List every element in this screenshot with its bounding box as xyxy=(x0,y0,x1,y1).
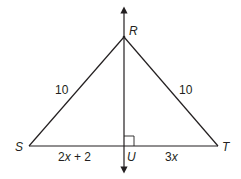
length-ut: 3x xyxy=(165,150,179,164)
label-u: U xyxy=(127,150,136,164)
label-r: R xyxy=(129,24,138,38)
segment-rs xyxy=(29,37,124,146)
length-rs: 10 xyxy=(55,83,69,97)
triangle-diagram: R S T U 10 10 2x + 2 3x xyxy=(0,0,241,179)
right-angle-mark xyxy=(124,136,134,146)
vertex-r-dot xyxy=(123,36,126,39)
length-rt: 10 xyxy=(179,83,193,97)
label-s: S xyxy=(15,140,23,154)
segment-rt xyxy=(124,37,218,146)
length-su-text: 2x + 2 xyxy=(58,150,91,164)
length-su: 2x + 2 xyxy=(58,150,91,164)
label-t: T xyxy=(222,140,231,154)
